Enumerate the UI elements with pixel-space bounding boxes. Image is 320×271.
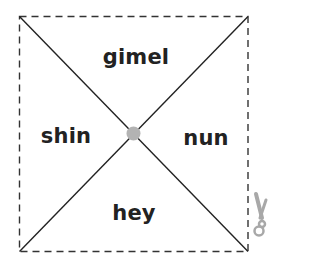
section-label-top: gimel: [103, 45, 170, 69]
scissors-icon: [255, 194, 267, 236]
section-label-bottom: hey: [112, 201, 155, 225]
center-dot: [127, 127, 141, 141]
section-label-left: shin: [41, 124, 91, 148]
section-label-right: nun: [183, 126, 228, 150]
